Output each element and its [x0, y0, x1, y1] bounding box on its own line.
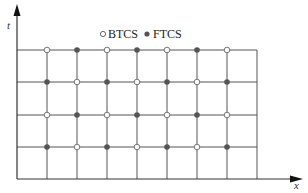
btcs-node-open-circle-icon — [134, 79, 140, 85]
btcs-node-open-circle-icon — [104, 112, 110, 118]
ftcs-node-filled-circle-icon — [164, 144, 170, 150]
x-axis-label: x — [293, 179, 299, 191]
ftcs-node-filled-circle-icon — [194, 112, 200, 118]
legend: BTCS FTCS — [100, 27, 181, 41]
btcs-node-open-circle-icon — [194, 79, 200, 85]
btcs-node-open-circle-icon — [44, 112, 50, 118]
ftcs-node-filled-circle-icon — [194, 47, 200, 53]
btcs-node-open-circle-icon — [44, 47, 50, 53]
ftcs-node-filled-circle-icon — [164, 79, 170, 85]
t-axis-label: t — [7, 19, 11, 31]
btcs-node-open-circle-icon — [164, 47, 170, 53]
legend-filled-circle-icon — [144, 31, 149, 36]
btcs-node-open-circle-icon — [134, 144, 140, 150]
btcs-node-open-circle-icon — [74, 144, 80, 150]
btcs-node-open-circle-icon — [74, 79, 80, 85]
ftcs-node-filled-circle-icon — [224, 79, 230, 85]
legend-label-btcs: BTCS — [108, 27, 138, 41]
legend-open-circle-icon — [100, 31, 105, 36]
btcs-node-open-circle-icon — [164, 112, 170, 118]
ftcs-node-filled-circle-icon — [74, 47, 80, 53]
btcs-node-open-circle-icon — [224, 112, 230, 118]
btcs-node-open-circle-icon — [224, 47, 230, 53]
ftcs-node-filled-circle-icon — [74, 112, 80, 118]
btcs-node-open-circle-icon — [194, 144, 200, 150]
ftcs-node-filled-circle-icon — [224, 144, 230, 150]
legend-label-ftcs: FTCS — [153, 27, 182, 41]
ftcs-node-filled-circle-icon — [44, 79, 50, 85]
ftcs-node-filled-circle-icon — [44, 144, 50, 150]
ftcs-node-filled-circle-icon — [134, 47, 140, 53]
ftcs-node-filled-circle-icon — [104, 79, 110, 85]
ftcs-node-filled-circle-icon — [104, 144, 110, 150]
ftcs-node-filled-circle-icon — [134, 112, 140, 118]
btcs-node-open-circle-icon — [104, 47, 110, 53]
stencil-diagram: t x BTCS FTCS — [0, 0, 308, 193]
t-axis-arrow-icon — [14, 4, 21, 16]
